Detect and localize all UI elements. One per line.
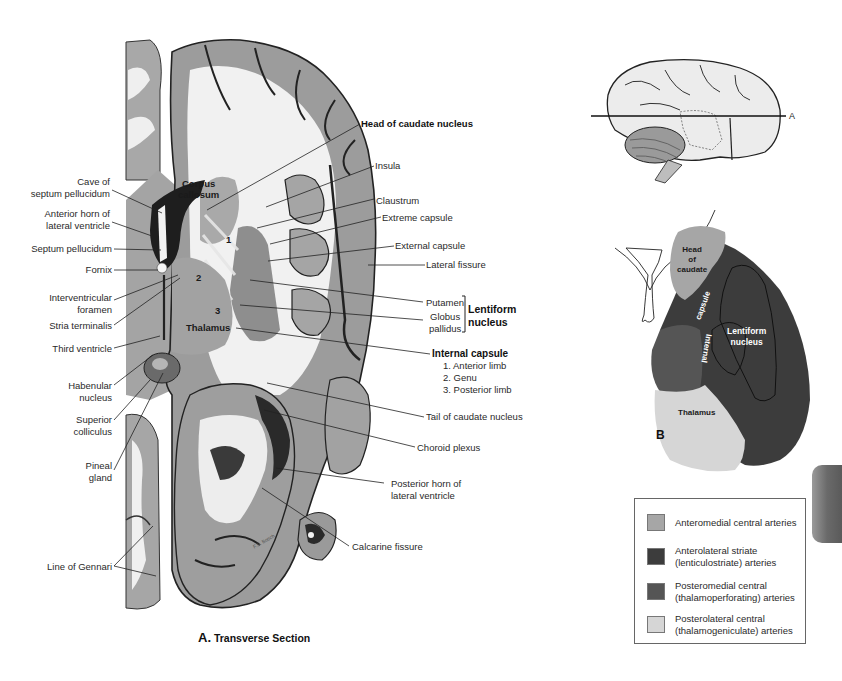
label-extreme-capsule: Extreme capsule <box>382 212 453 224</box>
posterior-limb-number: 3 <box>215 305 220 316</box>
swatch-anteromedial <box>647 514 665 531</box>
legend-item-posteromedial: Posteromedial central (thalamoperforatin… <box>647 580 795 603</box>
legend-text: Anteromedial central arteries <box>675 517 796 529</box>
figure-a-caption: A. Transverse Section <box>198 630 310 645</box>
label-claustrum: Claustrum <box>376 195 419 207</box>
label-genu: 2. Genu <box>443 372 477 384</box>
legend-text: Posteromedial central (thalamoperforatin… <box>675 580 795 603</box>
swatch-anterolateral <box>647 548 665 565</box>
b-lentiform-label: Lentiform nucleus <box>727 326 766 348</box>
page-edge-tab <box>812 465 842 543</box>
label-posterior-limb: 3. Posterior limb <box>443 384 512 396</box>
label-lateral-fissure: Lateral fissure <box>426 259 486 271</box>
legend-text: Posterolateral central (thalamogeniculat… <box>675 613 793 636</box>
anterior-limb-number: 1 <box>226 234 231 245</box>
swatch-posteromedial <box>647 583 665 600</box>
corpus-callosum-label: Corpus callosum <box>178 178 219 200</box>
label-anterior-limb: 1. Anterior limb <box>443 360 506 372</box>
label-superior-colliculus: Superior colliculus <box>73 414 112 437</box>
figure-a-title: Transverse Section <box>214 632 310 644</box>
label-septum-pellucidum: Septum pellucidum <box>31 243 112 255</box>
figure-a-letter: A. <box>198 630 211 645</box>
label-posterior-horn: Posterior horn of lateral ventricle <box>391 478 461 501</box>
label-interventricular-foramen: Interventricular foramen <box>49 292 112 315</box>
label-globus-pallidus: Globus pallidus <box>429 311 461 334</box>
legend-item-posterolateral: Posterolateral central (thalamogeniculat… <box>647 613 793 636</box>
lateral-brain-view <box>591 60 786 183</box>
label-choroid-plexus: Choroid plexus <box>417 442 480 454</box>
b-head-of-caudate-label: Head of caudate <box>677 245 707 275</box>
label-pineal-gland: Pineal gland <box>86 460 112 483</box>
label-stria-terminalis: Stria terminalis <box>49 320 112 332</box>
figure-b-letter: B <box>656 428 665 442</box>
label-lentiform-nucleus: Lentiform nucleus <box>468 303 516 328</box>
label-fornix: Fornix <box>86 264 112 276</box>
left-hemisphere-fragment <box>126 40 161 180</box>
b-thalamus-label: Thalamus <box>678 407 715 418</box>
genu-number: 2 <box>196 272 201 283</box>
label-insula: Insula <box>375 160 400 172</box>
thalamus-label: Thalamus <box>186 322 230 333</box>
legend-item-anterolateral: Anterolateral striate (lenticulostriate)… <box>647 545 776 568</box>
label-habenular-nucleus: Habenular nucleus <box>68 380 112 403</box>
label-line-of-gennari: Line of Gennari <box>47 561 112 573</box>
label-third-ventricle: Third ventricle <box>52 343 112 355</box>
label-calcarine-fissure: Calcarine fissure <box>352 541 423 553</box>
legend-text: Anterolateral striate (lenticulostriate)… <box>675 545 776 568</box>
label-putamen: Putamen <box>426 297 464 309</box>
artery-legend: Anteromedial central arteries Anterolate… <box>634 498 806 644</box>
swatch-posterolateral <box>647 616 665 633</box>
section-plane-marker: A <box>789 111 795 121</box>
label-tail-caudate: Tail of caudate nucleus <box>426 411 523 423</box>
label-internal-capsule: Internal capsule <box>432 348 508 360</box>
label-anterior-horn: Anterior horn of lateral ventricle <box>45 208 110 231</box>
label-external-capsule: External capsule <box>395 240 465 252</box>
legend-item-anteromedial: Anteromedial central arteries <box>647 514 796 531</box>
label-head-caudate: Head of caudate nucleus <box>361 118 473 130</box>
label-cave-septum: Cave of septum pellucidum <box>31 176 110 199</box>
